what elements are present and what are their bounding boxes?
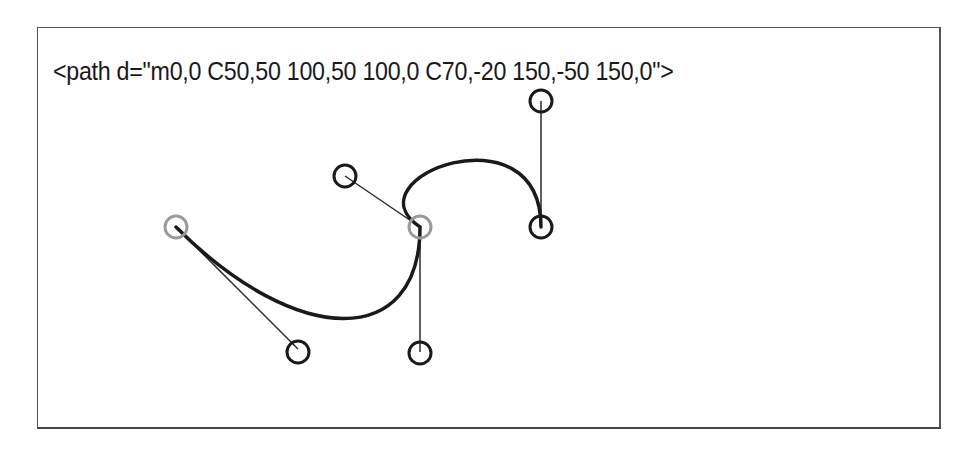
bezier-curve	[176, 160, 541, 318]
bezier-diagram	[0, 0, 963, 452]
control-point-1[interactable]	[287, 341, 309, 363]
